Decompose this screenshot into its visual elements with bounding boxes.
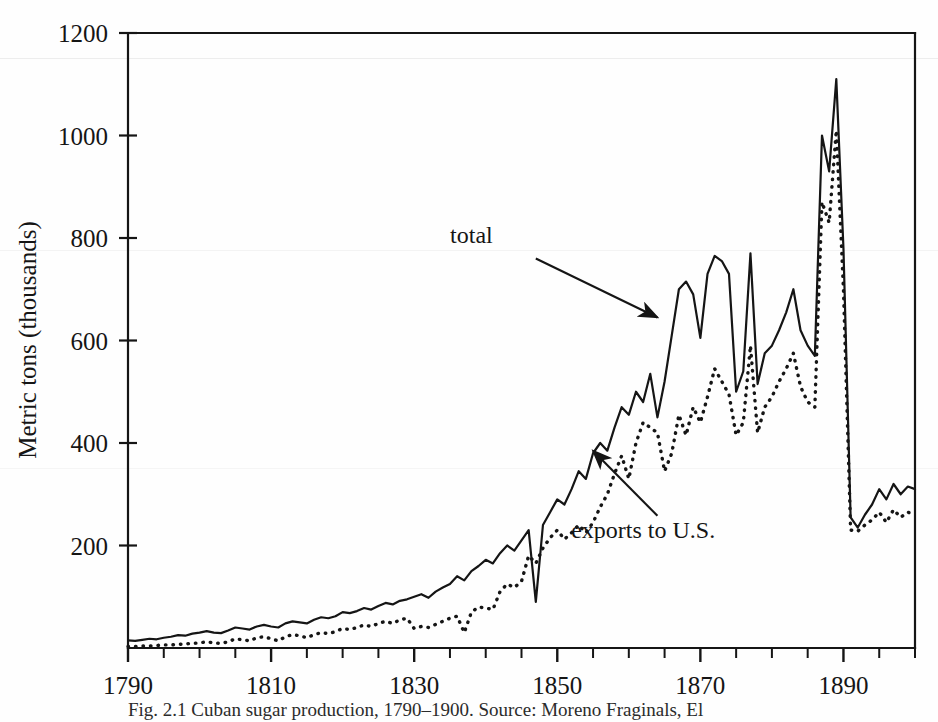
sugar-production-chart: Metric tons (thousands) 2004006008001000… bbox=[0, 0, 938, 722]
x-tick-label-1810: 1810 bbox=[246, 672, 296, 699]
x-tick-label-1870: 1870 bbox=[675, 672, 725, 699]
series-line-total bbox=[128, 79, 915, 641]
data-series-group bbox=[128, 79, 915, 646]
figure-caption: Fig. 2.1 Cuban sugar production, 1790–19… bbox=[128, 699, 703, 720]
x-tick-label-1890: 1890 bbox=[818, 672, 868, 699]
axes-frame bbox=[128, 33, 915, 648]
x-tick-label-1830: 1830 bbox=[389, 672, 439, 699]
figure-container: Metric tons (thousands) 2004006008001000… bbox=[0, 0, 938, 722]
x-tick-labels: 179018101830185018701890 bbox=[103, 672, 868, 699]
y-tick-label-200: 200 bbox=[71, 533, 109, 560]
y-axis-label: Metric tons (thousands) bbox=[14, 221, 42, 458]
annotation-arrow-total bbox=[536, 259, 658, 318]
annotation-label-exports-to-u-s: exports to U.S. bbox=[571, 517, 715, 543]
y-tick-label-400: 400 bbox=[71, 430, 109, 457]
y-tick-label-800: 800 bbox=[71, 225, 109, 252]
annotation-group: totalexports to U.S. bbox=[450, 222, 715, 543]
y-tick-label-600: 600 bbox=[71, 328, 109, 355]
x-tick-label-1850: 1850 bbox=[532, 672, 582, 699]
series-line-exports-to-u-s bbox=[128, 130, 915, 646]
annotation-label-total: total bbox=[450, 222, 493, 248]
y-tick-labels: 20040060080010001200 bbox=[58, 20, 108, 560]
x-tick-marks bbox=[128, 648, 915, 662]
y-tick-label-1200: 1200 bbox=[58, 20, 108, 47]
y-tick-label-1000: 1000 bbox=[58, 123, 108, 150]
x-tick-label-1790: 1790 bbox=[103, 672, 153, 699]
y-axis-label-group: Metric tons (thousands) bbox=[14, 221, 42, 458]
